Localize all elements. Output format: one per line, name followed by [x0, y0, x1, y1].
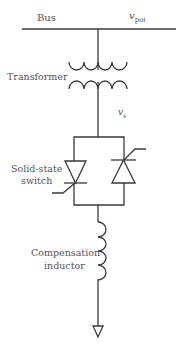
- ground-arrow-icon: [93, 326, 103, 337]
- bus-label: Bus: [37, 12, 56, 23]
- v-s-label: vs: [118, 107, 126, 119]
- v-poi-label: vpoi: [129, 10, 146, 24]
- thyristor-up-icon: [111, 149, 146, 183]
- solid-state-switch: [52, 137, 146, 205]
- inductor-label: Compensation inductor: [31, 247, 103, 271]
- switch-label: Solid-state switch: [11, 163, 65, 186]
- switch-top-rail: [74, 137, 124, 161]
- transformer-label: Transformer: [7, 71, 68, 82]
- single-line-diagram: Bus vpoi Transformer vs Solid-state swit…: [0, 0, 183, 358]
- switch-bottom-rail: [74, 183, 124, 205]
